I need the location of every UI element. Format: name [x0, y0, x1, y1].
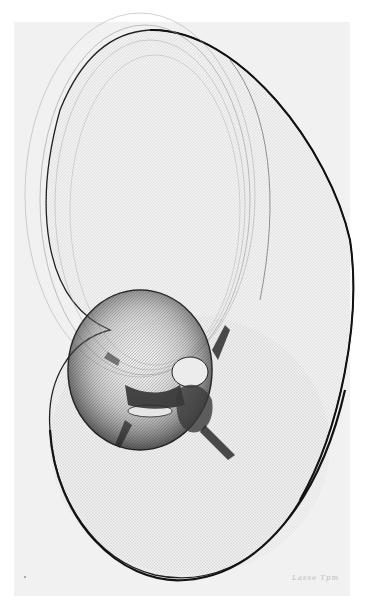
paper-mark: [24, 576, 26, 578]
artist-signature: Lasse Tpm: [292, 574, 339, 582]
plotter-artwork: [0, 0, 368, 611]
